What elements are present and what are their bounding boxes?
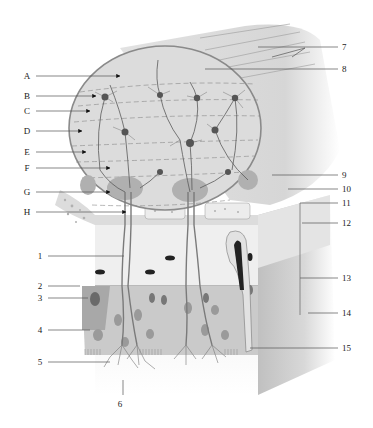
tissue-block (55, 190, 335, 395)
label-7: 7 (342, 42, 347, 52)
label-8: 8 (342, 64, 347, 74)
label-13: 13 (342, 273, 351, 283)
label-C: C (20, 106, 34, 116)
label-14: 14 (342, 308, 351, 318)
olfactory-bulb (69, 46, 261, 210)
olfactory-diagram: A B C D E F G H 1 2 3 4 5 6 7 8 9 10 11 … (0, 0, 373, 428)
label-1: 1 (33, 251, 47, 261)
label-A: A (20, 71, 34, 81)
label-4: 4 (33, 325, 47, 335)
label-10: 10 (342, 184, 351, 194)
label-11: 11 (342, 198, 351, 208)
diagram-illustration (0, 0, 373, 428)
label-12: 12 (342, 218, 351, 228)
label-D: D (20, 126, 34, 136)
label-6: 6 (113, 399, 127, 409)
label-G: G (20, 187, 34, 197)
label-F: F (20, 163, 34, 173)
label-B: B (20, 91, 34, 101)
label-2: 2 (33, 281, 47, 291)
label-H: H (20, 207, 34, 217)
label-E: E (20, 147, 34, 157)
label-5: 5 (33, 357, 47, 367)
label-3: 3 (33, 293, 47, 303)
label-15: 15 (342, 343, 351, 353)
label-9: 9 (342, 170, 347, 180)
